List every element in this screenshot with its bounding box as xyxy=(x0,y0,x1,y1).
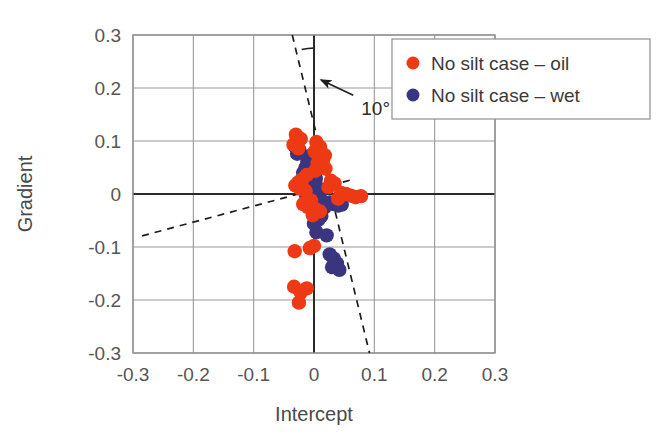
x-tick-label: 0.2 xyxy=(421,364,447,385)
legend-marker-oil xyxy=(407,57,420,70)
data-point xyxy=(292,295,306,309)
x-tick-label: 0.3 xyxy=(482,364,508,385)
angle-label: 10° xyxy=(361,98,390,119)
data-point xyxy=(321,180,335,194)
x-tick-label: 0.1 xyxy=(361,364,387,385)
data-point xyxy=(331,192,345,206)
y-tick-label: -0.1 xyxy=(88,237,121,258)
y-tick-label: 0 xyxy=(110,184,121,205)
data-point xyxy=(291,141,305,155)
data-point xyxy=(306,208,320,222)
y-tick-label: 0.1 xyxy=(95,131,121,152)
legend: No silt case – oil No silt case – wet xyxy=(392,39,650,119)
data-point xyxy=(307,239,321,253)
y-tick-label: -0.3 xyxy=(88,343,121,364)
x-tick-label: -0.2 xyxy=(177,364,210,385)
legend-label-oil: No silt case – oil xyxy=(431,53,569,74)
legend-marker-wet xyxy=(407,89,420,102)
x-tick-label: -0.3 xyxy=(117,364,150,385)
x-tick-label: 0 xyxy=(309,364,320,385)
y-tick-label: 0.2 xyxy=(95,78,121,99)
y-axis-title: Gradient xyxy=(14,155,36,232)
data-point xyxy=(332,263,346,277)
scatter-plot: 10° -0.3-0.2-0.100.10.20.3 0.30.20.10-0.… xyxy=(0,0,665,442)
data-point xyxy=(354,189,368,203)
y-tick-label: 0.3 xyxy=(95,25,121,46)
x-tick-label: -0.1 xyxy=(237,364,270,385)
legend-box xyxy=(392,39,650,119)
data-point xyxy=(319,228,333,242)
x-axis-title: Intercept xyxy=(275,403,353,425)
chart-figure: 10° -0.3-0.2-0.100.10.20.3 0.30.20.10-0.… xyxy=(0,0,665,442)
data-point xyxy=(287,244,301,258)
y-tick-label: -0.2 xyxy=(88,290,121,311)
legend-label-wet: No silt case – wet xyxy=(431,85,581,106)
